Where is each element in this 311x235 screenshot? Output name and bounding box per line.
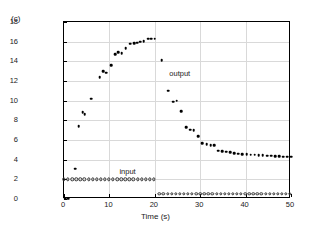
data-point-output — [282, 155, 285, 158]
data-point-input — [235, 192, 238, 195]
data-point-output — [74, 167, 77, 170]
data-point-output — [105, 71, 108, 74]
data-point-output — [99, 76, 102, 79]
data-point-input — [219, 192, 222, 195]
data-point-input — [62, 178, 65, 181]
data-point-output — [201, 142, 204, 145]
data-point-input — [170, 192, 173, 195]
data-point-input — [252, 192, 255, 195]
data-point-input — [128, 178, 131, 181]
y-tick-label: 16 — [0, 36, 18, 45]
data-point-input — [83, 178, 86, 181]
y-tick-label: 6 — [0, 135, 18, 144]
data-point-input — [95, 178, 98, 181]
data-point-input — [115, 178, 118, 181]
data-point-input — [124, 178, 127, 181]
data-point-input — [132, 178, 135, 181]
y-tick-label: 12 — [0, 76, 18, 85]
y-tick-label: 18 — [0, 17, 18, 26]
data-point-input — [215, 192, 218, 195]
data-point-output — [205, 143, 208, 146]
data-point-output — [160, 59, 163, 62]
data-point-output — [237, 152, 240, 155]
data-point-input — [264, 192, 267, 195]
data-point-output — [278, 155, 281, 158]
data-point-input — [227, 192, 230, 195]
data-point-output — [129, 42, 132, 45]
data-point-output — [290, 155, 293, 158]
data-point-output — [175, 99, 178, 102]
data-point-output — [154, 37, 157, 40]
data-point-input — [152, 178, 155, 181]
data-point-input — [239, 192, 242, 195]
data-point-output — [167, 90, 170, 93]
data-point-output — [189, 128, 192, 131]
data-point-input — [280, 192, 283, 195]
data-point-output — [253, 153, 256, 156]
data-point-input — [203, 192, 206, 195]
data-point-input — [140, 178, 143, 181]
data-point-input — [194, 192, 197, 195]
data-point-output — [150, 37, 153, 40]
data-point-input — [99, 178, 102, 181]
data-point-input — [248, 192, 251, 195]
data-point-input — [178, 192, 181, 195]
data-point-input — [166, 192, 169, 195]
y-tick-label: 8 — [0, 115, 18, 124]
data-point-output — [286, 155, 289, 158]
data-point-input — [276, 192, 279, 195]
data-point-output — [221, 150, 224, 153]
data-point-input — [284, 192, 287, 195]
data-point-input — [211, 192, 214, 195]
data-point-input — [107, 178, 110, 181]
data-point-input — [207, 192, 210, 195]
data-point-input — [223, 192, 226, 195]
data-point-output — [124, 47, 127, 50]
data-point-input — [79, 178, 82, 181]
y-tick-label: 10 — [0, 95, 18, 104]
data-point-output — [120, 52, 123, 55]
x-tick-label: 50 — [286, 200, 294, 209]
x-tick-label: 10 — [104, 200, 112, 209]
data-point-input — [268, 192, 271, 195]
plot-area: outputinput — [63, 21, 290, 198]
data-point-output — [77, 125, 80, 128]
data-point-output — [249, 153, 252, 156]
x-tick-label: 30 — [195, 200, 203, 209]
data-point-input — [103, 178, 106, 181]
data-point-input — [87, 178, 90, 181]
data-point-output — [139, 40, 142, 43]
data-point-output — [90, 97, 93, 100]
data-point-output — [114, 53, 117, 56]
data-point-output — [274, 155, 277, 158]
data-point-output — [245, 153, 248, 156]
data-point-output — [270, 154, 273, 157]
data-point-input — [70, 178, 73, 181]
y-tick-label: 0 — [0, 194, 18, 203]
x-tick-label: 20 — [150, 200, 158, 209]
data-point-output — [213, 144, 216, 147]
y-tick-label: 2 — [0, 174, 18, 183]
data-point-input — [136, 178, 139, 181]
data-point-output — [225, 151, 228, 154]
data-layer: outputinput — [64, 22, 289, 197]
data-point-output — [185, 126, 188, 129]
x-axis-title: Time (s) — [0, 212, 311, 221]
data-point-input — [198, 192, 201, 195]
series-annotation-output: output — [169, 69, 190, 78]
x-tick-label: 40 — [240, 200, 248, 209]
data-point-input — [144, 178, 147, 181]
data-point-output — [84, 113, 87, 116]
data-point-output — [229, 151, 232, 154]
data-point-output — [217, 150, 220, 153]
x-tick-label: 0 — [61, 200, 65, 209]
y-tick-label: 4 — [0, 154, 18, 163]
data-point-input — [190, 192, 193, 195]
data-point-input — [260, 192, 263, 195]
data-point-input — [66, 178, 69, 181]
data-point-input — [182, 192, 185, 195]
data-point-input — [256, 192, 259, 195]
data-point-input — [111, 178, 114, 181]
data-point-output — [143, 40, 146, 43]
data-point-output — [110, 64, 113, 67]
